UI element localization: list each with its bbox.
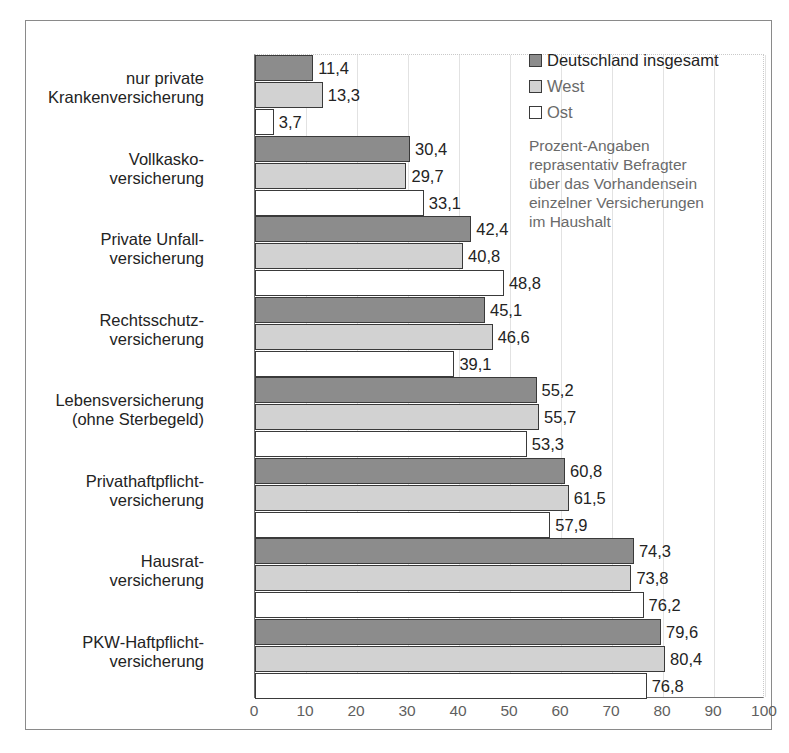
- bar-value-label: 30,4: [410, 139, 447, 158]
- bar-0[interactable]: [255, 538, 634, 564]
- bar-1[interactable]: [255, 646, 665, 672]
- bar-0[interactable]: [255, 55, 313, 81]
- bar-2[interactable]: [255, 431, 527, 457]
- legend-swatch-icon: [529, 54, 542, 67]
- bar-row: 39,1: [255, 351, 763, 377]
- legend-label: Ost: [547, 103, 573, 122]
- bar-value-label: 13,3: [323, 86, 360, 105]
- bar-row: 80,4: [255, 646, 763, 672]
- bar-value-label: 55,7: [539, 408, 576, 427]
- bar-1[interactable]: [255, 324, 493, 350]
- category-label: nur private Krankenversicherung: [0, 69, 204, 107]
- bar-row: 61,5: [255, 485, 763, 511]
- x-tick-label: 80: [653, 702, 670, 720]
- legend-item[interactable]: Deutschland insgesamt: [529, 51, 759, 70]
- bar-2[interactable]: [255, 270, 504, 296]
- bar-value-label: 29,7: [406, 166, 443, 185]
- bar-value-label: 73,8: [631, 569, 668, 588]
- bar-2[interactable]: [255, 190, 424, 216]
- bar-value-label: 45,1: [485, 300, 522, 319]
- legend-item[interactable]: Ost: [529, 103, 759, 122]
- bar-2[interactable]: [255, 512, 550, 538]
- gridline: [765, 55, 766, 697]
- figure-frame: 11,413,33,730,429,733,142,440,848,845,14…: [25, 20, 772, 730]
- bar-2[interactable]: [255, 592, 644, 618]
- bar-row: 74,3: [255, 538, 763, 564]
- bar-value-label: 33,1: [424, 193, 461, 212]
- category-label: Rechtsschutz- versicherung: [0, 311, 204, 349]
- legend-swatch-icon: [529, 106, 542, 119]
- bar-0[interactable]: [255, 136, 410, 162]
- category-label: Vollkasko- versicherung: [0, 150, 204, 188]
- bar-value-label: 11,4: [313, 59, 349, 78]
- bar-row: 79,6: [255, 619, 763, 645]
- bar-group: 74,373,876,2: [255, 538, 763, 619]
- bar-value-label: 76,8: [647, 676, 684, 695]
- bar-1[interactable]: [255, 82, 323, 108]
- x-tick-label: 100: [751, 702, 777, 720]
- category-label: Hausrat- versicherung: [0, 552, 204, 590]
- bar-row: 46,6: [255, 324, 763, 350]
- category-label: Lebensversicherung (ohne Sterbegeld): [0, 391, 204, 429]
- bar-1[interactable]: [255, 243, 463, 269]
- bar-1[interactable]: [255, 404, 539, 430]
- bar-value-label: 76,2: [644, 596, 681, 615]
- legend-annotation: Prozent-Angaben reprasentativ Befragter …: [529, 136, 759, 231]
- bar-value-label: 55,2: [537, 381, 574, 400]
- bar-group: 79,680,476,8: [255, 619, 763, 700]
- legend-label: Deutschland insgesamt: [547, 51, 719, 70]
- bar-value-label: 3,7: [274, 113, 302, 132]
- x-tick-label: 0: [250, 702, 259, 720]
- bar-row: 55,7: [255, 404, 763, 430]
- category-label: Privathaftpflicht- versicherung: [0, 472, 204, 510]
- bar-row: 53,3: [255, 431, 763, 457]
- bar-value-label: 42,4: [471, 220, 508, 239]
- legend: Deutschland insgesamtWestOst Prozent-Ang…: [529, 51, 759, 231]
- bar-row: 55,2: [255, 377, 763, 403]
- bar-row: 76,8: [255, 673, 763, 699]
- bar-value-label: 53,3: [527, 435, 564, 454]
- bar-value-label: 57,9: [550, 515, 587, 534]
- bar-row: 57,9: [255, 512, 763, 538]
- bar-0[interactable]: [255, 216, 471, 242]
- bar-value-label: 46,6: [493, 327, 530, 346]
- bar-row: 45,1: [255, 297, 763, 323]
- bar-group: 45,146,639,1: [255, 297, 763, 378]
- x-axis: 0102030405060708090100: [254, 702, 764, 726]
- bar-value-label: 48,8: [504, 274, 541, 293]
- chart-figure: 11,413,33,730,429,733,142,440,848,845,14…: [0, 0, 789, 753]
- x-tick-label: 70: [602, 702, 619, 720]
- bar-0[interactable]: [255, 377, 537, 403]
- x-tick-label: 10: [296, 702, 313, 720]
- bar-value-label: 60,8: [565, 461, 602, 480]
- bar-value-label: 39,1: [454, 354, 491, 373]
- x-tick-label: 50: [500, 702, 517, 720]
- bar-1[interactable]: [255, 565, 631, 591]
- bar-group: 60,861,557,9: [255, 458, 763, 539]
- bar-row: 60,8: [255, 458, 763, 484]
- bar-1[interactable]: [255, 163, 406, 189]
- bar-value-label: 40,8: [463, 247, 500, 266]
- bar-2[interactable]: [255, 351, 454, 377]
- bar-1[interactable]: [255, 485, 569, 511]
- bar-value-label: 79,6: [661, 622, 698, 641]
- legend-item[interactable]: West: [529, 77, 759, 96]
- legend-items: Deutschland insgesamtWestOst: [529, 51, 759, 122]
- bar-2[interactable]: [255, 109, 274, 135]
- x-tick-label: 60: [551, 702, 568, 720]
- x-tick-label: 30: [398, 702, 415, 720]
- bar-row: 40,8: [255, 243, 763, 269]
- bar-row: 76,2: [255, 592, 763, 618]
- bar-0[interactable]: [255, 458, 565, 484]
- x-tick-label: 40: [449, 702, 466, 720]
- bar-0[interactable]: [255, 297, 485, 323]
- legend-label: West: [547, 77, 584, 96]
- category-label: PKW-Haftpflicht- versicherung: [0, 633, 204, 671]
- bar-row: 73,8: [255, 565, 763, 591]
- bar-row: 48,8: [255, 270, 763, 296]
- category-label: Private Unfall- versicherung: [0, 230, 204, 268]
- bar-2[interactable]: [255, 673, 647, 699]
- bar-0[interactable]: [255, 619, 661, 645]
- legend-swatch-icon: [529, 80, 542, 93]
- bar-value-label: 80,4: [665, 649, 702, 668]
